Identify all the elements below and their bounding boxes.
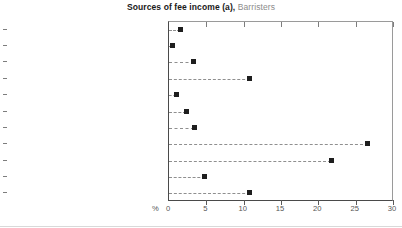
data-row	[169, 121, 392, 136]
plot-inner	[169, 22, 392, 200]
data-point-marker	[174, 92, 179, 97]
x-axis-unit-label: %	[152, 204, 159, 213]
data-row	[169, 88, 392, 103]
category-tick	[3, 192, 7, 193]
data-row	[169, 105, 392, 120]
data-point-marker	[202, 174, 207, 179]
category-tick	[3, 127, 7, 128]
data-point-marker	[365, 141, 370, 146]
leader-line	[169, 177, 205, 179]
data-point-marker	[329, 158, 334, 163]
leader-line	[169, 161, 331, 163]
leader-line	[169, 193, 250, 195]
category-tick	[3, 111, 7, 112]
category-tick	[3, 29, 7, 30]
data-row	[169, 137, 392, 152]
category-tick	[3, 45, 7, 46]
x-axis-tick-label: 10	[238, 204, 246, 213]
category-tick	[3, 78, 7, 79]
data-row	[169, 154, 392, 169]
chart-title: Sources of fee income (a), Barristers	[0, 2, 402, 12]
data-row	[169, 55, 392, 70]
x-axis-tick-label: 5	[203, 204, 207, 213]
leader-line	[169, 128, 194, 130]
data-point-marker	[247, 190, 252, 195]
x-tick-top	[393, 22, 394, 27]
category-tick	[3, 61, 7, 62]
data-point-marker	[192, 125, 197, 130]
data-row	[169, 186, 392, 201]
data-point-marker	[247, 76, 252, 81]
data-point-marker	[191, 59, 196, 64]
category-tick	[3, 94, 7, 95]
chart-title-subject: Barristers	[238, 2, 275, 12]
leader-line	[169, 62, 194, 64]
leader-line	[169, 79, 250, 81]
x-axis-tick-label: 30	[388, 204, 396, 213]
data-row	[169, 39, 392, 54]
data-point-marker	[178, 27, 183, 32]
x-axis-tick-label: 25	[350, 204, 358, 213]
x-axis-tick-label: 20	[313, 204, 321, 213]
category-tick	[3, 160, 7, 161]
data-row	[169, 23, 392, 38]
category-tick	[3, 143, 7, 144]
data-row	[169, 72, 392, 87]
x-axis-tick-label: 0	[166, 204, 170, 213]
data-point-marker	[170, 43, 175, 48]
category-tick	[3, 176, 7, 177]
chart-title-main: Sources of fee income (a),	[127, 2, 235, 12]
data-row	[169, 170, 392, 185]
chart-figure: Sources of fee income (a), Barristers Pr…	[0, 0, 402, 228]
x-axis-tick-label: 15	[276, 204, 284, 213]
footer-rule	[0, 226, 402, 227]
data-point-marker	[184, 109, 189, 114]
plot-area	[168, 21, 393, 201]
leader-line	[169, 144, 368, 146]
